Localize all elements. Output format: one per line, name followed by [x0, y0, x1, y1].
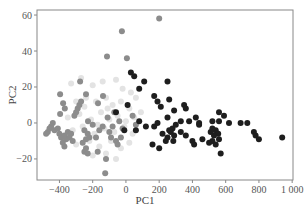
- data-point-group-dark-27: [173, 122, 179, 128]
- data-point-group-mid-38: [86, 134, 92, 140]
- data-point-group-dark-56: [170, 138, 176, 144]
- y-tick-label: 40: [22, 46, 32, 57]
- data-point-group-dark-31: [163, 138, 169, 144]
- data-point-group-mid-33: [61, 143, 67, 149]
- data-point-group-dark-57: [156, 145, 162, 151]
- data-point-group-dark-58: [150, 142, 156, 148]
- data-point-group-dark-47: [218, 151, 224, 157]
- y-tick-label: 0: [27, 117, 32, 128]
- data-point-group-dark-29: [171, 133, 177, 139]
- data-point-group-mid-57: [105, 115, 111, 121]
- scatter-chart: −400−20002004006008001 000 −200204060 PC…: [0, 0, 304, 212]
- data-point-group-light-3: [100, 79, 106, 85]
- data-point-group-mid-0: [156, 16, 162, 22]
- x-tick-label: 0: [123, 184, 128, 195]
- data-point-group-dark-22: [226, 120, 232, 126]
- data-point-group-dark-61: [113, 109, 119, 115]
- data-point-group-mid-34: [70, 138, 76, 144]
- data-point-group-dark-1: [131, 73, 137, 79]
- data-point-group-mid-5: [83, 91, 89, 97]
- data-point-group-dark-49: [244, 120, 250, 126]
- data-point-group-mid-23: [43, 131, 49, 137]
- data-point-group-dark-45: [213, 142, 219, 148]
- data-point-group-mid-60: [130, 113, 136, 119]
- data-point-group-mid-1: [119, 28, 125, 34]
- data-point-group-mid-11: [95, 100, 101, 106]
- data-point-group-mid-53: [93, 134, 99, 140]
- data-point-group-mid-45: [102, 170, 108, 176]
- data-point-group-mid-17: [71, 113, 77, 119]
- data-point-group-dark-40: [208, 129, 214, 135]
- data-point-group-dark-9: [158, 104, 164, 110]
- data-point-group-mid-6: [57, 91, 63, 97]
- data-point-group-dark-16: [143, 124, 149, 130]
- data-point-group-mid-55: [100, 124, 106, 130]
- data-point-group-mid-43: [95, 149, 101, 155]
- data-point-group-mid-39: [80, 140, 86, 146]
- data-point-group-mid-59: [118, 134, 124, 140]
- data-point-group-dark-11: [183, 106, 189, 112]
- data-point-group-dark-60: [136, 118, 142, 124]
- data-point-group-light-10: [110, 102, 116, 108]
- y-tick-label: 20: [22, 81, 32, 92]
- data-point-group-dark-15: [193, 115, 199, 121]
- x-tick-label: −200: [82, 184, 103, 195]
- x-tick-label: 600: [218, 184, 233, 195]
- data-point-group-light-16: [98, 109, 104, 115]
- data-point-group-mid-21: [55, 125, 61, 131]
- data-point-group-mid-56: [90, 122, 96, 128]
- points-layer: [43, 16, 285, 177]
- data-point-group-light-19: [123, 118, 129, 124]
- data-point-group-dark-19: [165, 115, 171, 121]
- data-point-group-mid-2: [104, 53, 110, 59]
- plot-frame: [37, 10, 293, 180]
- data-point-group-dark-3: [136, 86, 142, 92]
- data-point-group-dark-52: [256, 136, 262, 142]
- data-point-group-dark-33: [183, 133, 189, 139]
- data-point-group-mid-9: [57, 111, 63, 117]
- data-point-group-mid-46: [106, 129, 112, 135]
- data-point-group-dark-62: [121, 127, 127, 133]
- y-axis-label: PC2: [6, 86, 18, 105]
- data-point-group-dark-12: [171, 107, 177, 113]
- data-point-group-mid-10: [85, 118, 91, 124]
- data-point-group-light-5: [120, 86, 126, 92]
- x-tick-label: 800: [251, 184, 266, 195]
- data-point-group-dark-13: [216, 109, 222, 115]
- y-axis: −200204060: [16, 10, 37, 165]
- data-point-group-light-11: [118, 98, 124, 104]
- data-point-group-dark-23: [209, 118, 215, 124]
- data-point-group-dark-24: [160, 131, 166, 137]
- y-tick-label: 60: [22, 10, 32, 21]
- data-point-group-dark-35: [196, 120, 202, 126]
- data-point-group-dark-4: [165, 79, 171, 85]
- data-point-group-mid-50: [110, 124, 116, 130]
- x-axis-label: PC1: [136, 194, 155, 206]
- data-point-group-mid-47: [108, 134, 114, 140]
- data-point-group-mid-31: [68, 131, 74, 137]
- data-point-group-light-0: [68, 80, 74, 86]
- x-tick-label: 1 000: [281, 184, 304, 195]
- x-tick-label: −400: [49, 184, 70, 195]
- data-point-group-mid-8: [62, 106, 68, 112]
- data-point-group-mid-24: [47, 125, 53, 131]
- data-point-group-dark-42: [199, 136, 205, 142]
- data-point-group-dark-18: [155, 120, 161, 126]
- data-point-group-dark-55: [191, 142, 197, 148]
- data-point-group-light-38: [128, 89, 134, 95]
- data-point-group-mid-3: [124, 55, 130, 61]
- data-point-group-light-36: [103, 151, 109, 157]
- data-point-group-mid-4: [77, 79, 83, 85]
- data-point-group-dark-7: [125, 102, 131, 108]
- data-point-group-light-31: [96, 143, 102, 149]
- data-point-group-light-42: [105, 106, 111, 112]
- data-point-group-dark-32: [178, 129, 184, 135]
- data-point-group-light-34: [126, 140, 132, 146]
- data-point-group-light-2: [90, 82, 96, 88]
- data-point-group-dark-34: [178, 118, 184, 124]
- data-point-group-dark-20: [186, 118, 192, 124]
- data-point-group-light-13: [65, 115, 71, 121]
- data-point-group-dark-59: [133, 127, 139, 133]
- data-point-group-mid-51: [116, 118, 122, 124]
- data-point-group-mid-12: [100, 93, 106, 99]
